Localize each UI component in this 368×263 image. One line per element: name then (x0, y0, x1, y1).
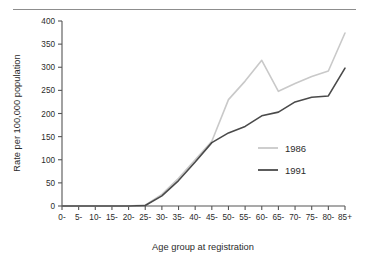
chart-legend: 19861991 (258, 143, 306, 176)
x-tick-label: 15- (106, 213, 118, 222)
legend-label-1991: 1991 (285, 165, 306, 176)
x-tick-label: 65- (272, 213, 284, 222)
x-axis-ticks: 0-5-10-15-20-25-30-35-40-45-50-55-60-65-… (58, 206, 352, 222)
data-series-group (62, 33, 345, 206)
y-axis-ticks: 050100150200250300350400 (41, 17, 62, 211)
y-tick-label: 100 (41, 156, 55, 165)
x-tick-label: 40- (189, 213, 201, 222)
x-tick-label: 35- (173, 213, 185, 222)
x-tick-label: 50- (223, 213, 235, 222)
x-tick-label: 55- (239, 213, 251, 222)
chart-plot-area: 050100150200250300350400 0-5-10-15-20-25… (0, 0, 368, 263)
x-tick-label: 80- (322, 213, 334, 222)
y-tick-label: 150 (41, 133, 55, 142)
x-axis-title: Age group at registration (152, 242, 254, 252)
series-line-1991 (62, 68, 345, 206)
x-tick-label: 5- (75, 213, 83, 222)
y-tick-label: 350 (41, 40, 55, 49)
x-tick-label: 25- (139, 213, 151, 222)
y-axis-title: Rate per 100,000 population (12, 54, 22, 171)
series-line-1986 (62, 33, 345, 206)
x-tick-label: 0- (58, 213, 66, 222)
x-tick-label: 45- (206, 213, 218, 222)
figure-container: 050100150200250300350400 0-5-10-15-20-25… (0, 0, 368, 263)
y-tick-label: 50 (46, 179, 56, 188)
x-tick-label: 70- (289, 213, 301, 222)
line-chart-svg: 050100150200250300350400 0-5-10-15-20-25… (0, 0, 368, 263)
x-tick-label: 10- (89, 213, 101, 222)
x-tick-label: 75- (306, 213, 318, 222)
x-tick-label: 20- (123, 213, 135, 222)
y-tick-label: 400 (41, 17, 55, 26)
y-tick-label: 0 (50, 202, 55, 211)
legend-label-1986: 1986 (285, 143, 306, 154)
y-tick-label: 200 (41, 110, 55, 119)
x-tick-label: 60- (256, 213, 268, 222)
x-tick-label: 85+ (338, 213, 352, 222)
x-tick-label: 30- (156, 213, 168, 222)
y-tick-label: 250 (41, 86, 55, 95)
y-tick-label: 300 (41, 63, 55, 72)
